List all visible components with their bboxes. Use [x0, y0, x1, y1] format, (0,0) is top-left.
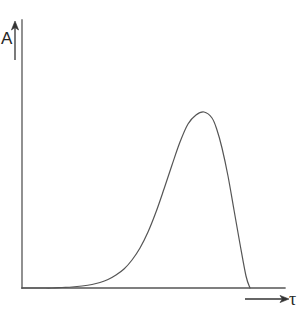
x-axis-label: τ	[289, 290, 296, 308]
y-axis-arrow-icon	[11, 21, 18, 60]
data-curve	[22, 112, 250, 288]
x-axis-arrow-icon	[245, 295, 289, 302]
y-axis-label: A	[1, 30, 12, 47]
plot-svg	[0, 0, 306, 311]
figure-canvas: A τ	[0, 0, 306, 311]
